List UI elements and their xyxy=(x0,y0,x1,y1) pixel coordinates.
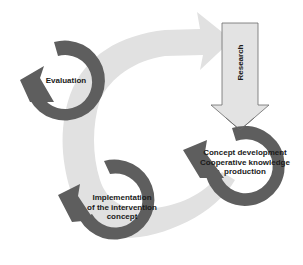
concept-line-3: production xyxy=(200,167,290,177)
research-label: Research xyxy=(236,39,245,87)
concept-label: Concept development Cooperative knowledg… xyxy=(200,148,290,177)
evaluation-text: Evaluation xyxy=(44,76,88,86)
implementation-line-3: concept xyxy=(82,212,162,222)
concept-line-2: Cooperative knowledge xyxy=(200,158,290,168)
implementation-label: Implementation of the intervention conce… xyxy=(82,193,162,222)
implementation-line-1: Implementation xyxy=(82,193,162,203)
concept-line-1: Concept development xyxy=(200,148,290,158)
evaluation-label: Evaluation xyxy=(44,76,88,86)
cycle-diagram xyxy=(0,0,303,265)
implementation-line-2: of the intervention xyxy=(82,203,162,213)
